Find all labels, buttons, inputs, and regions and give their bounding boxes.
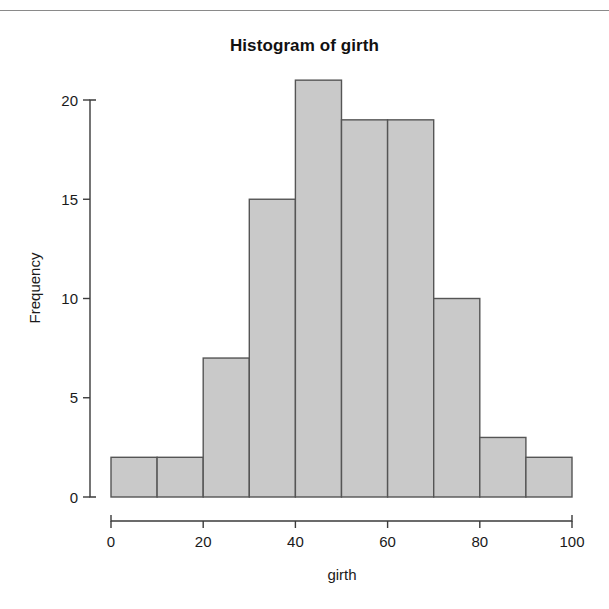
y-axis-tick-label: 5	[70, 389, 78, 406]
histogram-bar	[526, 457, 572, 497]
histogram-bar	[249, 199, 295, 497]
y-axis-tick-label: 15	[61, 191, 78, 208]
histogram-bar	[111, 457, 157, 497]
histogram-bar	[388, 120, 434, 497]
page-root: Histogram of girth 05101520020406080100 …	[0, 0, 609, 609]
y-axis-tick-label: 10	[61, 290, 78, 307]
histogram-bar	[480, 437, 526, 497]
histogram-bar	[342, 120, 388, 497]
x-axis-title: girth	[327, 566, 356, 583]
y-axis-tick-label: 0	[70, 489, 78, 506]
x-axis-tick-label: 0	[107, 533, 115, 550]
histogram-bar	[434, 299, 480, 498]
y-axis-title: Frequency	[26, 252, 43, 323]
histogram-bar	[203, 358, 249, 497]
bars-group	[111, 80, 572, 497]
x-axis-line	[111, 515, 572, 521]
y-axis-line	[90, 100, 96, 497]
x-axis-tick-label: 40	[287, 533, 304, 550]
histogram-bar	[157, 457, 203, 497]
histogram-bar	[295, 80, 341, 497]
histogram-chart: 05101520020406080100 girthFrequency	[0, 0, 609, 609]
x-axis-tick-label: 80	[471, 533, 488, 550]
x-axis-tick-label: 60	[379, 533, 396, 550]
x-axis-tick-label: 20	[195, 533, 212, 550]
x-axis-tick-label: 100	[559, 533, 584, 550]
y-axis-tick-label: 20	[61, 92, 78, 109]
